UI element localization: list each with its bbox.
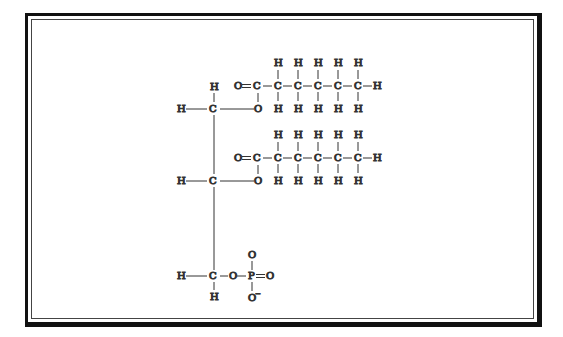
atom-h: H [314,103,323,114]
atom-c: C [314,152,322,163]
acyl-chain-1: O O C C C C C C H H H H H H H H H H H [234,57,382,114]
atom-h: H [294,175,303,186]
atom-c: C [253,80,261,91]
phosphate-group: O P O O O − [220,249,274,303]
atom-h: H [373,80,382,91]
atom-h: H [177,175,186,186]
atom-o: O [229,270,237,281]
atom-c: C [334,152,342,163]
atom-c: C [294,80,302,91]
acyl-chain-2: O O C C C C C C H H H H H H H H H H H [234,129,382,186]
atom-h: H [294,103,303,114]
atom-h: H [274,175,283,186]
atom-c: C [354,152,362,163]
carbonyl-oxygen: O [234,80,242,91]
atom-p: P [248,270,255,281]
molecule-diagram: H H C H C H C H O P O O O − O [0,0,563,337]
atom-h: H [177,270,186,281]
atom-h: H [314,175,323,186]
atom-o: O [248,249,256,260]
atom-h: H [354,129,363,140]
atom-c: C [334,80,342,91]
atom-h: H [274,103,283,114]
glycerol-backbone: H H C H C H C H [177,81,254,302]
atom-c1: C [209,103,217,114]
atom-h: H [373,152,382,163]
atom-h: H [274,57,283,68]
atom-h: H [334,57,343,68]
atom-h: H [274,129,283,140]
atom-h: H [334,103,343,114]
atom-h: H [210,291,219,302]
ester-oxygen: O [254,103,262,114]
atom-c: C [294,152,302,163]
atom-c: C [314,80,322,91]
negative-charge: − [255,290,261,298]
atom-c: C [253,152,261,163]
atom-h: H [334,129,343,140]
atom-h: H [294,57,303,68]
atom-h: H [314,57,323,68]
atom-h: H [354,175,363,186]
atom-c: C [274,152,282,163]
atom-h: H [210,81,219,92]
atom-h: H [354,103,363,114]
atom-c3: C [209,270,217,281]
atom-o: O [266,270,274,281]
atom-h: H [354,57,363,68]
carbonyl-oxygen: O [234,152,242,163]
atom-h: H [294,129,303,140]
ester-oxygen: O [254,175,262,186]
atom-h: H [334,175,343,186]
atom-c: C [274,80,282,91]
atom-c: C [354,80,362,91]
atom-c2: C [209,175,217,186]
atom-h: H [177,103,186,114]
atom-h: H [314,129,323,140]
